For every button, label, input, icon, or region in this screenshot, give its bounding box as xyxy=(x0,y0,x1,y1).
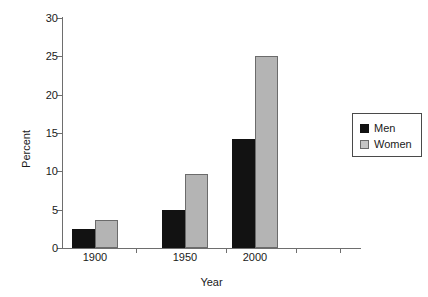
x-tick-label-2000: 2000 xyxy=(232,252,278,263)
legend-item-women: Women xyxy=(360,136,421,152)
bar-men-1900 xyxy=(72,229,95,248)
legend: Men Women xyxy=(352,113,422,157)
bar-women-1900 xyxy=(95,220,118,248)
x-tick-mark-3 xyxy=(296,248,297,253)
bar-men-1950 xyxy=(162,210,185,248)
x-tick-mark-4 xyxy=(340,248,341,253)
y-axis-title: Percent xyxy=(21,130,32,168)
y-tick-label-20: 20 xyxy=(46,89,58,100)
legend-swatch-men-icon xyxy=(360,124,369,133)
bar-men-2000 xyxy=(232,139,255,248)
bar-group-1950: 1950 xyxy=(162,18,208,248)
bar-women-1950 xyxy=(185,174,208,248)
x-axis-title: Year xyxy=(62,277,361,288)
x-tick-label-1900: 1900 xyxy=(72,252,118,263)
bar-group-1900: 1900 xyxy=(72,18,118,248)
y-tick-label-10: 10 xyxy=(46,166,58,177)
legend-label-women: Women xyxy=(374,139,412,150)
bar-women-2000 xyxy=(255,56,278,248)
legend-item-men: Men xyxy=(360,120,421,136)
plot-area: 0 5 10 15 20 25 30 1900 xyxy=(62,18,360,248)
y-tick-label-5: 5 xyxy=(52,204,58,215)
x-axis-line xyxy=(62,248,361,249)
x-tick-label-1950: 1950 xyxy=(162,252,208,263)
x-tick-mark-1 xyxy=(136,248,137,253)
y-tick-label-30: 30 xyxy=(46,13,58,24)
y-tick-label-0: 0 xyxy=(52,243,58,254)
y-tick-label-25: 25 xyxy=(46,51,58,62)
bar-chart: Percent Year 0 5 10 15 20 25 xyxy=(0,0,428,297)
bar-group-2000: 2000 xyxy=(232,18,278,248)
legend-label-men: Men xyxy=(374,123,395,134)
y-tick-label-15: 15 xyxy=(46,128,58,139)
legend-swatch-women-icon xyxy=(360,140,369,149)
x-tick-mark-2 xyxy=(226,248,227,253)
